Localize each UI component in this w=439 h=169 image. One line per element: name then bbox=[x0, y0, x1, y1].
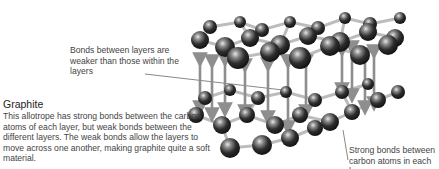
weak-interlayer-bonds-label: Bonds between layers are weaker than tho… bbox=[70, 45, 180, 77]
graphite-caption: Graphite This allotrope has strong bonds… bbox=[3, 98, 218, 164]
strong-bonds-leader-line bbox=[343, 130, 348, 160]
graphite-title: Graphite bbox=[3, 98, 218, 110]
strong-intralayer-bonds-label: Strong bonds between carbon atoms in eac… bbox=[349, 145, 439, 169]
graphite-description: This allotrope has strong bonds between … bbox=[3, 111, 218, 164]
